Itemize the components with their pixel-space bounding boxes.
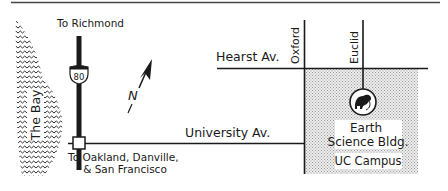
building-label-line2: Science Bldg. [328,135,409,149]
euclid-label: Euclid [348,31,361,64]
hearst-label: Hearst Av. [216,49,280,64]
location-map: The Bay 80 To Richmond To Oakland, Danvi… [0,0,448,191]
to-oakland-label: To Oakland, Danville, & San Francisco [67,151,182,175]
oxford-label: Oxford [289,27,302,64]
interstate-shield-icon: 80 [70,66,88,85]
interchange-square-icon [73,137,85,149]
north-arrow-icon: N [128,59,152,113]
highway-number: 80 [74,72,85,82]
the-bay: The Bay [16,20,63,176]
to-oakland-line2: & San Francisco [83,163,167,175]
university-label: University Av. [185,125,270,140]
to-oakland-line1: To Oakland, Danville, [67,151,178,163]
campus-label: UC Campus [335,154,402,168]
building-label-line1: Earth [350,121,382,135]
interstate-80: 80 To Richmond To Oakland, Danville, & S… [56,17,182,175]
highway-road [77,36,82,170]
to-richmond-label: To Richmond [56,17,124,29]
north-label: N [128,88,138,103]
dinosaur-icon [350,89,376,115]
the-bay-label: The Bay [28,89,43,141]
